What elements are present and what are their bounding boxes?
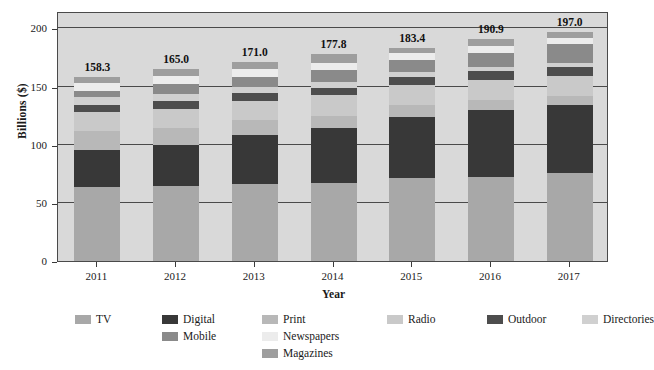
bar-segment-mobile[interactable] xyxy=(389,60,435,72)
bar-segment-digital[interactable] xyxy=(153,145,199,186)
legend-swatch-icon xyxy=(487,315,503,324)
bar-segment-radio[interactable] xyxy=(468,80,514,100)
bar-segment-outdoor[interactable] xyxy=(232,93,278,101)
legend-item-radio[interactable]: Radio xyxy=(387,313,435,325)
bar-segment-magazines[interactable] xyxy=(74,77,120,83)
bar-segment-tv[interactable] xyxy=(232,184,278,261)
bar-2013[interactable]: 171.0 xyxy=(232,11,278,261)
bar-segment-digital[interactable] xyxy=(311,128,357,183)
x-axis-tick-label: 2013 xyxy=(224,270,284,282)
bar-segment-magazines[interactable] xyxy=(153,69,199,75)
bar-segment-digital[interactable] xyxy=(232,135,278,184)
bar-total-label: 197.0 xyxy=(540,16,600,28)
bar-segment-mobile[interactable] xyxy=(468,53,514,67)
bar-segment-radio[interactable] xyxy=(232,101,278,121)
bar-segment-directories[interactable] xyxy=(311,82,357,88)
bar-total-label: 171.0 xyxy=(225,46,285,58)
bar-segment-mobile[interactable] xyxy=(547,44,593,63)
bar-segment-tv[interactable] xyxy=(547,173,593,261)
bar-segment-print[interactable] xyxy=(547,96,593,105)
bar-segment-newspapers[interactable] xyxy=(232,69,278,77)
legend-item-outdoor[interactable]: Outdoor xyxy=(487,313,546,325)
bar-total-label: 177.8 xyxy=(304,38,364,50)
bar-segment-directories[interactable] xyxy=(389,72,435,77)
bar-segment-digital[interactable] xyxy=(389,117,435,178)
bar-segment-radio[interactable] xyxy=(547,76,593,96)
legend-item-magazines[interactable]: Magazines xyxy=(262,347,333,359)
bar-segment-tv[interactable] xyxy=(311,183,357,261)
bar-segment-radio[interactable] xyxy=(389,85,435,105)
bar-segment-digital[interactable] xyxy=(468,110,514,177)
bar-2011[interactable]: 158.3 xyxy=(74,11,120,261)
bar-segment-radio[interactable] xyxy=(153,109,199,129)
bar-segment-mobile[interactable] xyxy=(153,84,199,94)
bar-total-label: 190.9 xyxy=(461,23,521,35)
bar-segment-mobile[interactable] xyxy=(311,70,357,82)
bar-segment-newspapers[interactable] xyxy=(153,76,199,84)
y-axis-title: Billions ($) xyxy=(16,51,28,171)
y-axis-tick-label: 200 xyxy=(11,22,47,34)
legend-item-print[interactable]: Print xyxy=(262,313,305,325)
bar-segment-magazines[interactable] xyxy=(547,32,593,38)
bar-2014[interactable]: 177.8 xyxy=(311,11,357,261)
bar-segment-radio[interactable] xyxy=(311,95,357,115)
bar-segment-outdoor[interactable] xyxy=(311,88,357,96)
bar-segment-outdoor[interactable] xyxy=(468,71,514,79)
bar-segment-newspapers[interactable] xyxy=(389,53,435,60)
bar-segment-print[interactable] xyxy=(468,100,514,110)
bar-segment-outdoor[interactable] xyxy=(547,67,593,75)
bar-segment-magazines[interactable] xyxy=(232,62,278,69)
bar-segment-mobile[interactable] xyxy=(232,77,278,87)
legend-item-mobile[interactable]: Mobile xyxy=(162,330,216,342)
bar-segment-directories[interactable] xyxy=(547,63,593,67)
bar-segment-radio[interactable] xyxy=(74,112,120,131)
legend-item-digital[interactable]: Digital xyxy=(162,313,215,325)
plot-inner: 158.3165.0171.0177.8183.4190.9197.0 xyxy=(58,13,607,261)
bar-segment-newspapers[interactable] xyxy=(468,46,514,53)
bar-segment-print[interactable] xyxy=(311,116,357,129)
bar-segment-outdoor[interactable] xyxy=(153,101,199,109)
bar-2012[interactable]: 165.0 xyxy=(153,11,199,261)
y-axis-tick-label: 50 xyxy=(11,197,47,209)
bar-segment-magazines[interactable] xyxy=(311,54,357,62)
bar-segment-digital[interactable] xyxy=(547,105,593,173)
bar-segment-mobile[interactable] xyxy=(74,91,120,97)
bar-2017[interactable]: 197.0 xyxy=(547,11,593,261)
x-axis-tick-mark xyxy=(411,262,412,267)
bar-segment-print[interactable] xyxy=(232,120,278,135)
bar-segment-print[interactable] xyxy=(153,128,199,145)
bar-segment-tv[interactable] xyxy=(74,187,120,261)
legend-item-directories[interactable]: Directories xyxy=(582,313,654,325)
bar-segment-directories[interactable] xyxy=(468,67,514,72)
bar-segment-print[interactable] xyxy=(389,105,435,117)
bar-2015[interactable]: 183.4 xyxy=(389,11,435,261)
bar-segment-tv[interactable] xyxy=(468,177,514,261)
bar-segment-tv[interactable] xyxy=(153,186,199,261)
bar-segment-newspapers[interactable] xyxy=(547,38,593,44)
bar-segment-newspapers[interactable] xyxy=(311,63,357,71)
bar-segment-magazines[interactable] xyxy=(389,48,435,54)
bar-segment-directories[interactable] xyxy=(74,97,120,105)
x-axis-tick-label: 2012 xyxy=(145,270,205,282)
bar-segment-print[interactable] xyxy=(74,131,120,150)
bar-segment-outdoor[interactable] xyxy=(74,105,120,113)
plot-area: 158.3165.0171.0177.8183.4190.9197.0 xyxy=(57,12,608,262)
bar-segment-newspapers[interactable] xyxy=(74,83,120,92)
bar-segment-outdoor[interactable] xyxy=(389,77,435,85)
x-axis-tick-mark xyxy=(333,262,334,267)
bar-segment-digital[interactable] xyxy=(74,150,120,187)
x-axis-tick-mark xyxy=(96,262,97,267)
bar-segment-directories[interactable] xyxy=(153,94,199,101)
bar-total-label: 158.3 xyxy=(67,61,127,73)
bar-segment-directories[interactable] xyxy=(232,87,278,93)
bar-2016[interactable]: 190.9 xyxy=(468,11,514,261)
x-axis-tick-label: 2014 xyxy=(303,270,363,282)
y-axis-tick-mark xyxy=(52,204,57,205)
legend-label: Print xyxy=(283,313,305,325)
legend-item-tv[interactable]: TV xyxy=(75,313,111,325)
bar-segment-magazines[interactable] xyxy=(468,39,514,46)
legend-item-newspapers[interactable]: Newspapers xyxy=(262,330,339,342)
legend-swatch-icon xyxy=(582,315,598,324)
bar-segment-tv[interactable] xyxy=(389,178,435,261)
